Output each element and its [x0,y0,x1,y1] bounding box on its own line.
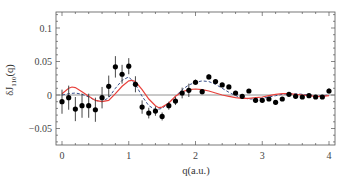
y-tick-label: 0.05 [35,56,53,67]
y-tick-label: 0 [47,90,52,101]
data-point [180,88,185,99]
data-point [113,56,118,77]
chart: 01234 −0.0500.050.1 q(a.u.) δJ110(q) [0,0,350,183]
data-point [280,96,285,101]
data-point [306,93,311,98]
data-point [320,94,325,99]
data-point [133,76,138,92]
data-point [153,106,158,115]
data-point [300,94,305,99]
data-point [326,88,331,93]
plot-frame [56,12,335,145]
data-point [119,65,124,84]
x-tick-label: 0 [60,150,65,161]
data-point [286,92,291,97]
data-point [126,58,131,74]
data-point [59,90,64,114]
x-tick-label: 4 [327,150,332,161]
data-point [226,84,231,89]
data-point [79,94,84,118]
data-point [260,98,265,103]
x-tick-label: 3 [260,150,265,161]
data-point [313,94,318,99]
data-point [266,96,271,101]
x-axis-label: q(a.u.) [182,165,210,177]
data-point [220,82,225,87]
axis-ticks [56,12,335,145]
data-point [213,79,218,84]
data-point [140,100,145,113]
data-point [99,87,104,108]
data-point [73,97,78,121]
x-tick-label: 2 [193,150,198,161]
data-point [106,76,111,97]
y-tick-label: −0.05 [29,123,52,134]
data-point [246,88,251,93]
y-axis-label-tail: (q) [4,64,16,77]
x-tick-label: 1 [126,150,131,161]
data-point [273,100,278,105]
data-point [193,80,198,85]
data-point [166,102,171,110]
data-point [146,108,151,119]
y-tick-label: 0.1 [40,23,53,34]
data-point [233,90,238,95]
x-tick-labels: 01234 [60,150,332,161]
data-point [160,112,165,120]
y-tick-labels: −0.0500.050.1 [29,23,52,135]
data-point [206,74,211,79]
y-axis-label-main: δJ [4,87,15,96]
y-axis-label-sub: 110 [10,76,18,87]
data-point [253,98,258,103]
y-axis-label: δJ110(q) [4,64,18,96]
data-point [240,94,245,99]
data-point [293,94,298,99]
